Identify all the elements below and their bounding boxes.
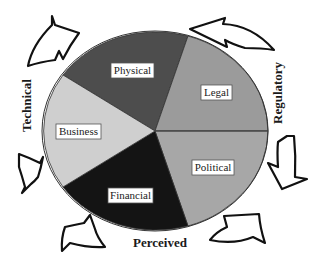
label-legal: Legal <box>201 85 232 100</box>
label-financial-text: Financial <box>110 189 151 201</box>
label-physical-text: Physical <box>114 64 151 76</box>
arrow-top-left-icon <box>28 16 79 66</box>
risk-categories-diagram: Physical Legal Political Financial Busin… <box>0 0 323 265</box>
outer-label-technical: Technical <box>19 79 34 132</box>
label-legal-text: Legal <box>204 86 229 98</box>
outer-label-regulatory: Regulatory <box>270 61 285 124</box>
label-political: Political <box>192 160 234 175</box>
outer-label-perceived: Perceived <box>133 235 188 250</box>
label-business: Business <box>56 124 101 139</box>
arrow-left-icon <box>19 154 43 193</box>
arrow-right-icon <box>268 136 307 189</box>
label-physical: Physical <box>111 63 154 78</box>
arrow-bottom-left-icon <box>62 215 105 251</box>
label-political-text: Political <box>195 161 232 173</box>
label-financial: Financial <box>108 188 153 203</box>
arrow-bottom-right-icon <box>210 214 265 243</box>
label-business-text: Business <box>59 125 98 137</box>
